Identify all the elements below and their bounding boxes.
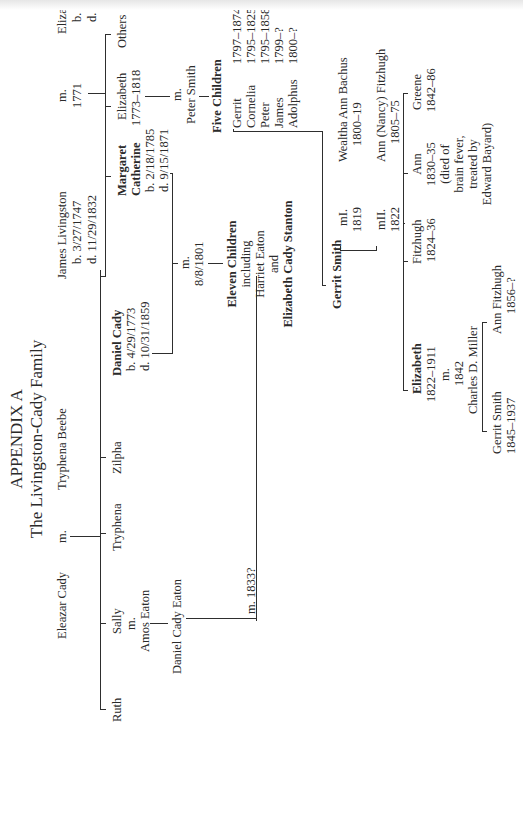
person-ann-nancy-fitzhugh: Ann (Nancy) Fitzhugh [374, 49, 388, 162]
person-greene: Greene [410, 74, 424, 110]
person-wealtha-ann-bachus: Wealtha Ann Bachus [336, 57, 350, 162]
greene-years: 1842–86 [424, 68, 438, 112]
person-amos-eaton: Amos Eaton [138, 590, 152, 652]
connector [105, 176, 111, 177]
connector [172, 174, 173, 354]
marriage-date: 8/8/1801 [192, 242, 206, 286]
connector [145, 96, 170, 97]
appendix-heading: APPENDIX A [10, 359, 24, 519]
person-ann-fitzhugh-miller: Ann Fitzhugh [490, 265, 504, 334]
child-peter-years: 1795–1858 [258, 8, 272, 64]
ann-note: brain fever, [452, 114, 466, 214]
person-charles-d-miller: Charles D. Miller [466, 326, 480, 414]
daniel-died: d. 10/31/1859 [138, 302, 152, 371]
person-eleazar-cady: Eleazar Cady [55, 572, 69, 639]
marriage-label: m. [55, 530, 69, 543]
person-tryphena: Tryphena [110, 504, 124, 551]
connector [170, 173, 173, 174]
connector [100, 623, 106, 624]
second-marriage-year: 1822 [388, 207, 402, 232]
connector [340, 250, 377, 251]
marriage-label: m. [124, 617, 138, 630]
child-james-years: 1799–? [272, 27, 286, 64]
marriage-label: m. [55, 89, 69, 102]
gerrit-smith-miller-years: 1845–1937 [504, 398, 518, 454]
sibling-line-miller [482, 322, 483, 432]
connector [340, 246, 341, 251]
ann-note: (died of [438, 114, 452, 214]
person-sally: Sally [110, 608, 124, 634]
connector [186, 618, 256, 619]
connector [256, 276, 257, 277]
connector [208, 263, 223, 264]
connector [100, 533, 106, 534]
connector [70, 536, 100, 537]
margaret-died: d. 9/15/1871 [157, 129, 171, 192]
family-tree-page: APPENDIX A The Livingston-Cady Family El… [0, 0, 523, 834]
person-daniel-cady-eaton: Daniel Cady Eaton [170, 579, 184, 674]
person-peter-smith: Peter Smith [184, 65, 198, 124]
connector [152, 353, 172, 354]
child-cornelia: Cornelia [244, 85, 258, 128]
wealtha-years: 1800–19 [350, 102, 364, 146]
child-adolphus-years: 1800–? [286, 27, 300, 64]
connector [403, 261, 408, 262]
ann-note: Edward Bayard) [480, 114, 494, 214]
connector [233, 131, 322, 132]
child-james: James [272, 97, 286, 128]
connector [105, 34, 111, 35]
first-marriage-year: 1819 [350, 207, 364, 232]
connector [199, 96, 209, 97]
marriage-year: 1842 [452, 361, 466, 386]
daniel-born: b. 4/29/1773 [124, 308, 138, 371]
ann-note: treated by [466, 114, 480, 214]
person-elizabeth-livingston: Elizabeth [115, 73, 129, 120]
connector [376, 246, 377, 251]
page-edge-shadow [0, 0, 523, 10]
ann-fitzhugh-miller-years: 1856–? [504, 277, 518, 314]
sibling-line-cady [100, 270, 101, 710]
five-children-heading: Five Children [210, 59, 224, 133]
person-margaret-catherine: Margaret [115, 145, 129, 196]
eleven-children-and: and [267, 214, 281, 314]
person-gerrit-smith-miller: Gerrit Smith [490, 391, 504, 454]
james-died: d. 11/29/1832 [85, 195, 99, 264]
connector [482, 322, 487, 323]
connector [403, 93, 408, 94]
first-marriage-label: mI. [336, 209, 350, 226]
connector [322, 285, 326, 286]
marriage-label: m. [178, 256, 192, 269]
person-fitzhugh: Fitzhugh [410, 220, 424, 264]
child-peter: Peter [258, 102, 272, 128]
connector [403, 390, 408, 391]
child-gerrit-years: 1797–1874 [230, 8, 244, 64]
connector [100, 457, 106, 458]
elizabeth-livingston-years: 1773–1818 [129, 70, 143, 126]
person-others: Others [115, 15, 129, 48]
eaton-marriage: m. 1833? [244, 567, 258, 614]
margaret-born: b. 2/18/1785 [143, 129, 157, 192]
child-cornelia-years: 1795–1825 [244, 8, 258, 64]
person-james-livingston: James Livingston [55, 191, 69, 279]
marriage-year: 1771 [70, 83, 84, 108]
second-marriage-label: mII. [374, 209, 388, 230]
marriage-label: m. [438, 368, 452, 381]
eleven-children: Eleven Children [225, 214, 239, 314]
sibling-line-smith [403, 93, 404, 391]
connector [88, 93, 105, 94]
connector [403, 173, 408, 174]
person-ruth: Ruth [110, 698, 124, 722]
elizabeth-cady-stanton: Elizabeth Cady Stanton [281, 184, 295, 344]
elizabeth-smith-years: 1822–1911 [424, 346, 438, 402]
james-born: b. 3/27/1747 [70, 201, 84, 264]
connector [105, 106, 111, 107]
family-tree-title: The Livingston-Cady Family [30, 309, 44, 569]
fitzhugh-years: 1824–36 [424, 218, 438, 262]
ann-nancy-years: 1805–75 [388, 100, 402, 144]
connector [150, 623, 168, 624]
child-gerrit: Gerrit [230, 98, 244, 128]
marriage-label: m. [170, 88, 184, 101]
connector [322, 131, 323, 286]
connector [100, 709, 106, 710]
child-adolphus: Adolphus [286, 79, 300, 128]
